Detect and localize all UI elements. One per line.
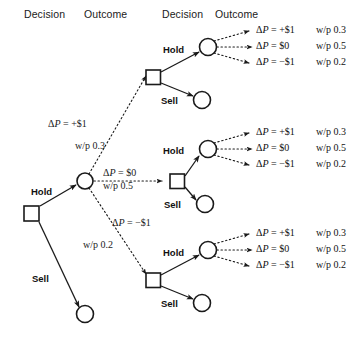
- column-header-outcome-2: Outcome: [215, 8, 258, 20]
- outcome-deltap: ΔP = $0: [256, 40, 316, 51]
- edge-outcome-1-up: [214, 31, 249, 41]
- column-header-decision-1: Decision: [24, 8, 65, 20]
- stage1-label-up-deltap: ΔP = +$1: [48, 118, 87, 129]
- outcome-label: ΔP = +$1 w/p 0.3: [256, 227, 346, 238]
- outcome-prob: w/p 0.2: [316, 259, 346, 270]
- terminal-node-sell-3: [194, 295, 211, 312]
- outcome-prob: w/p 0.5: [316, 142, 346, 153]
- terminal-node-sell-1: [194, 92, 211, 109]
- stage1-label-down-deltap: ΔP = −$1: [112, 217, 151, 228]
- outcome-deltap: ΔP = +$1: [256, 24, 316, 35]
- stage1-label-mid-deltap: ΔP = $0: [103, 167, 136, 178]
- edge-stage1-up: [89, 76, 146, 174]
- edge-outcome-1-down: [214, 53, 249, 63]
- outcome-deltap: ΔP = −$1: [256, 259, 316, 270]
- edge-stage1-down: [89, 188, 146, 274]
- outcome-deltap: ΔP = $0: [256, 142, 316, 153]
- outcome-deltap: ΔP = −$1: [256, 56, 316, 67]
- terminal-node-root-sell: [77, 306, 94, 323]
- outcome-prob: w/p 0.3: [316, 24, 346, 35]
- column-header-outcome-1: Outcome: [84, 8, 127, 20]
- outcome-label: ΔP = +$1 w/p 0.3: [256, 126, 346, 137]
- edge-outcome-2-down: [214, 155, 249, 165]
- outcome-deltap: ΔP = −$1: [256, 158, 316, 169]
- outcome-deltap: ΔP = +$1: [256, 126, 316, 137]
- outcome-label: ΔP = −$1 w/p 0.2: [256, 259, 346, 270]
- outcome-label: ΔP = $0 w/p 0.5: [256, 243, 346, 254]
- outcome-deltap: ΔP = +$1: [256, 227, 316, 238]
- outcome-label: ΔP = −$1 w/p 0.2: [256, 56, 346, 67]
- edge-root-sell: [39, 222, 79, 307]
- edge-label-sell-3: Sell: [161, 298, 178, 309]
- outcome-prob: w/p 0.2: [316, 158, 346, 169]
- outcome-label: ΔP = $0 w/p 0.5: [256, 142, 346, 153]
- edge-label-root-sell: Sell: [32, 273, 49, 284]
- stage1-label-mid-prob: w/p 0.5: [103, 180, 133, 191]
- edge-outcome-3-down: [214, 256, 249, 266]
- outcome-prob: w/p 0.2: [316, 56, 346, 67]
- outcome-prob: w/p 0.3: [316, 126, 346, 137]
- edge-sell-2: [185, 187, 196, 200]
- edge-hold-1: [161, 52, 199, 72]
- stage1-chance-node: [77, 173, 93, 189]
- outcome-label: ΔP = −$1 w/p 0.2: [256, 158, 346, 169]
- terminal-node-sell-2: [197, 196, 214, 213]
- stage1-label-up-prob: w/p 0.3: [75, 140, 105, 151]
- outcome-prob: w/p 0.3: [316, 227, 346, 238]
- outcome-label: ΔP = $0 w/p 0.5: [256, 40, 346, 51]
- outcome-deltap: ΔP = $0: [256, 243, 316, 254]
- stage2-decision-node-1: [146, 70, 161, 85]
- edge-hold-2: [185, 156, 199, 176]
- edge-label-hold-1: Hold: [163, 44, 184, 55]
- edge-hold-3: [161, 255, 199, 275]
- outcome-label: ΔP = +$1 w/p 0.3: [256, 24, 346, 35]
- stage2-decision-node-2: [170, 174, 185, 189]
- root-decision-node: [24, 206, 39, 221]
- column-header-decision-2: Decision: [162, 8, 203, 20]
- outcome-prob: w/p 0.5: [316, 40, 346, 51]
- edge-label-hold-2: Hold: [163, 145, 184, 156]
- outcome-prob: w/p 0.5: [316, 243, 346, 254]
- edge-label-hold-3: Hold: [163, 247, 184, 258]
- stage2-decision-node-3: [146, 273, 161, 288]
- stage1-label-down-prob: w/p 0.2: [83, 239, 113, 250]
- edge-label-sell-2: Sell: [164, 199, 181, 210]
- edge-outcome-2-up: [214, 133, 249, 143]
- decision-tree-diagram: Decision Outcome Decision Outcome Hold S…: [0, 0, 363, 339]
- edge-outcome-3-up: [214, 234, 249, 244]
- edge-label-root-hold: Hold: [31, 186, 52, 197]
- edge-label-sell-1: Sell: [161, 95, 178, 106]
